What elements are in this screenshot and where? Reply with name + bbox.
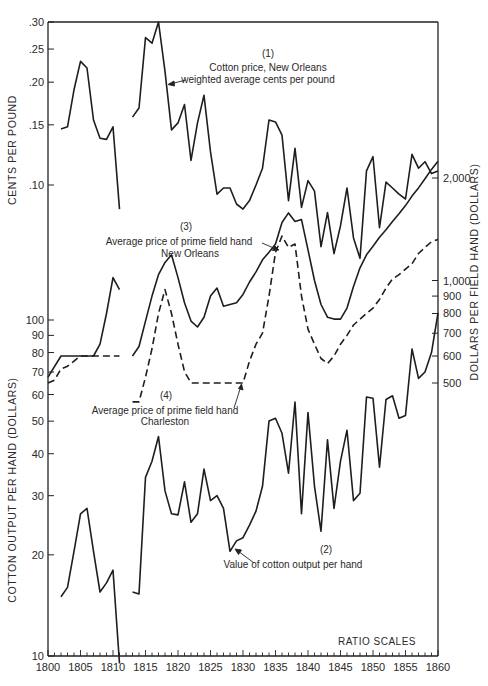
left-bottom-tick-label: 40 [32, 448, 44, 460]
x-axis-ticks [48, 650, 438, 656]
series-2-line [133, 313, 439, 594]
x-tick-label: 1800 [36, 661, 60, 673]
right-tick-label: 2,000 [443, 172, 471, 184]
left-bottom-tick-label: 70 [32, 366, 44, 378]
left-bottom-tick-label: 80 [32, 347, 44, 359]
series-4-number: (4) [160, 390, 172, 401]
right-tick-label: 700 [443, 327, 461, 339]
chart: 1800180518101815182018251830183518401845… [0, 0, 488, 686]
ratio-scales-note: RATIO SCALES [338, 636, 416, 647]
left-top-tick-label: .15 [29, 119, 44, 131]
left-top-tick-label: .25 [29, 43, 44, 55]
x-tick-label: 1825 [198, 661, 222, 673]
right-axis-title: DOLLARS PER FIELD HAND (DOLLARS) [468, 164, 480, 381]
x-tick-label: 1855 [393, 661, 417, 673]
x-tick-label: 1840 [296, 661, 320, 673]
series-1-label-line1: Cotton price, New Orleans [209, 62, 326, 73]
left-bottom-tick-label: 60 [32, 389, 44, 401]
left-bottom-tick-label: 50 [32, 415, 44, 427]
series-3-line [48, 278, 120, 378]
x-tick-label: 1830 [231, 661, 255, 673]
series-3-number: (3) [180, 221, 192, 232]
left-bottom-tick-label: 20 [32, 549, 44, 561]
series-3-label-line2: New Orleans [161, 248, 219, 259]
series-1-number: (1) [262, 48, 274, 59]
left-top-tick-label: .10 [29, 179, 44, 191]
right-tick-label: 900 [443, 290, 461, 302]
left-bottom-tick-label: 10 [32, 650, 44, 662]
x-tick-label: 1845 [328, 661, 352, 673]
right-tick-label: 500 [443, 377, 461, 389]
series-4-arrow [234, 384, 243, 408]
left-top-tick-label: .20 [29, 76, 44, 88]
left-axis-ticks: .30.25.20.15.10100908070605040302010 [26, 16, 54, 662]
left-bottom-tick-label: 90 [32, 329, 44, 341]
x-tick-label: 1810 [101, 661, 125, 673]
x-tick-label: 1820 [166, 661, 190, 673]
left-top-axis-title: CENTS PER POUND [6, 95, 18, 205]
series-4-label-line2: Charleston [141, 416, 189, 427]
x-axis-tick-labels: 1800180518101815182018251830183518401845… [36, 661, 450, 673]
right-tick-label: 600 [443, 350, 461, 362]
x-tick-label: 1835 [263, 661, 287, 673]
left-bottom-tick-label: 30 [32, 490, 44, 502]
x-tick-label: 1815 [133, 661, 157, 673]
left-bottom-tick-label: 100 [26, 314, 44, 326]
series-2-label-line1: Value of cotton output per hand [224, 559, 363, 570]
x-tick-label: 1860 [426, 661, 450, 673]
x-tick-label: 1805 [68, 661, 92, 673]
series-1-label-line2: weighted average cents per pound [180, 74, 334, 85]
x-tick-label: 1850 [361, 661, 385, 673]
series-3-label-line1: Average price of prime field hand [106, 236, 253, 247]
right-tick-label: 1,000 [443, 275, 471, 287]
series-1-line [61, 61, 120, 209]
right-tick-label: 800 [443, 307, 461, 319]
series-2-line [61, 508, 120, 663]
series-4-line [133, 236, 439, 402]
series-4-label-line1: Average price of prime field hand [92, 405, 239, 416]
series-2-number: (2) [320, 544, 332, 555]
left-bottom-axis-title: COTTON OUTPUT PER HAND (DOLLARS) [6, 377, 18, 602]
left-top-tick-label: .30 [29, 16, 44, 28]
